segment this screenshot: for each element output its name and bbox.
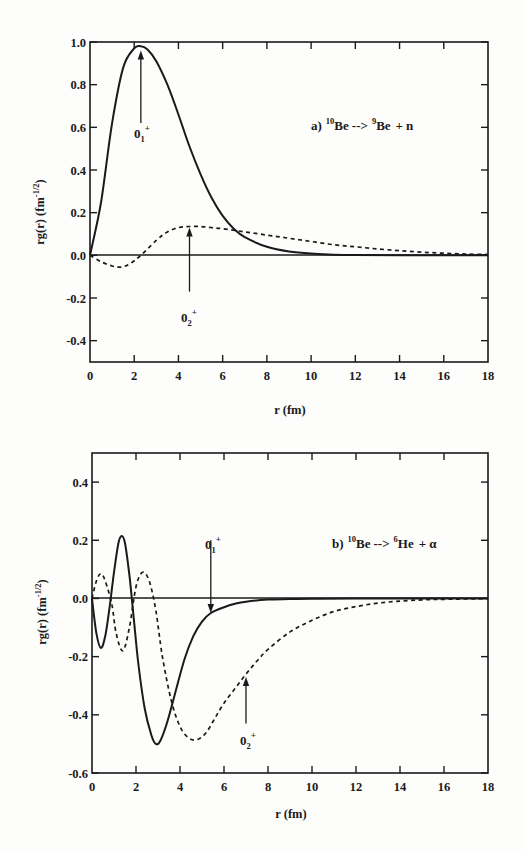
label-0-1-plus-a: 01+ (134, 123, 150, 144)
x-tick-label: 8 (264, 369, 270, 383)
curves-b (92, 536, 488, 744)
x-tick-label: 16 (438, 369, 451, 383)
y-axis-title-a: rg(r) (fm-1/2) (31, 179, 47, 244)
x-tick-label: 18 (482, 780, 495, 794)
x-tick-label: 8 (265, 780, 271, 794)
y-tick-label: -0.4 (68, 708, 89, 722)
y-tick-label: 0.4 (70, 164, 86, 178)
curves-a (90, 46, 488, 267)
y-tick-label: 0.0 (70, 249, 86, 263)
label-0-2-plus-b: 02+ (240, 730, 256, 751)
plot-frame-b (92, 453, 488, 773)
ticks-a: 0246810121416181.00.80.60.40.20.0-0.2-0.… (66, 36, 494, 384)
x-tick-label: 14 (394, 780, 407, 794)
label-0-1-plus-b: 01+ (205, 534, 221, 555)
x-axis-title-b: r (fm) (275, 807, 306, 821)
figure: 0246810121416181.00.80.60.40.20.0-0.2-0.… (0, 0, 525, 850)
x-tick-label: 10 (306, 780, 319, 794)
y-tick-label: 0.2 (72, 534, 88, 548)
chart-panel-b: 0246810121416180.40.20.0-0.2-0.4-0.6 r (… (33, 453, 494, 821)
label-0-2-plus-a: 02+ (181, 307, 197, 328)
x-tick-label: 2 (133, 780, 139, 794)
y-axis-title-b: rg(r) (fm-1/2) (33, 579, 49, 644)
x-tick-label: 6 (220, 369, 226, 383)
y-tick-label: 0.6 (70, 121, 86, 135)
x-tick-label: 16 (438, 780, 451, 794)
plot-frame-a (90, 42, 488, 362)
y-tick-label: 0.0 (72, 592, 88, 606)
x-tick-label: 0 (89, 780, 95, 794)
x-tick-label: 0 (87, 369, 93, 383)
curve-0-1plus (92, 536, 488, 744)
y-tick-label: 0.8 (70, 78, 86, 92)
x-tick-label: 10 (305, 369, 318, 383)
x-tick-label: 14 (393, 369, 406, 383)
curve-0-1plus (90, 46, 488, 255)
x-tick-label: 18 (482, 369, 495, 383)
x-tick-label: 12 (349, 369, 362, 383)
y-tick-label: -0.2 (68, 650, 88, 664)
y-tick-label: 1.0 (70, 36, 86, 50)
arrowhead-icon (186, 228, 192, 237)
curve-0-2plus (90, 226, 488, 267)
ticks-b: 0246810121416180.40.20.0-0.2-0.4-0.6 (68, 453, 494, 794)
y-tick-label: 0.4 (72, 476, 88, 490)
arrowhead-icon (138, 51, 144, 60)
chart-panel-a: 0246810121416181.00.80.60.40.20.0-0.2-0.… (31, 36, 494, 418)
x-tick-label: 4 (177, 780, 184, 794)
panel-a-annotation: a)10Be-->9Be+n (311, 116, 414, 133)
y-tick-label: -0.4 (66, 334, 87, 348)
x-axis-title-a: r (fm) (274, 403, 305, 417)
x-tick-label: 4 (175, 369, 182, 383)
x-tick-label: 12 (350, 780, 363, 794)
panel-b-annotation: b)10Be-->6He+α (332, 534, 437, 551)
x-tick-label: 2 (131, 369, 137, 383)
y-tick-label: 0.2 (70, 206, 86, 220)
x-tick-label: 6 (221, 780, 227, 794)
y-tick-label: -0.6 (68, 767, 88, 781)
y-tick-label: -0.2 (66, 292, 86, 306)
